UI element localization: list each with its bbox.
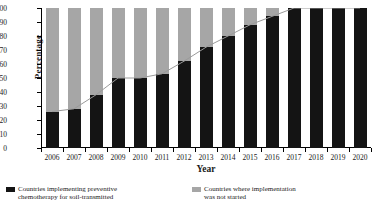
x-tick-mark <box>283 148 284 152</box>
y-tick-label: 20 <box>0 117 7 125</box>
y-tick-label: 60 <box>0 61 7 69</box>
stacked-bar[interactable] <box>178 8 191 148</box>
bar-segment-not-started <box>46 8 59 112</box>
bar-segment-implementing <box>134 78 147 148</box>
bar-segment-implementing <box>310 8 323 148</box>
x-tick-label: 2006 <box>41 153 63 162</box>
bar-segment-implementing <box>200 47 213 148</box>
x-tick-label: 2010 <box>129 153 151 162</box>
x-tick-mark <box>129 148 130 152</box>
x-tick-label: 2009 <box>107 153 129 162</box>
legend-item[interactable]: Countries where implementationwas not st… <box>192 185 368 201</box>
bar-segment-implementing <box>112 78 125 148</box>
bar-segment-implementing <box>222 36 235 148</box>
x-tick-mark <box>261 148 262 152</box>
stacked-bar[interactable] <box>46 8 59 148</box>
x-tick-label: 2020 <box>349 153 371 162</box>
legend-label: Countries implementing preventivechemoth… <box>18 185 117 201</box>
stacked-bar[interactable] <box>266 8 279 148</box>
x-tick-label: 2015 <box>239 153 261 162</box>
bar-slot <box>85 8 107 148</box>
bar-segment-not-started <box>134 8 147 78</box>
stacked-bar[interactable] <box>200 8 213 148</box>
x-tick-mark <box>107 148 108 152</box>
bar-segment-implementing <box>46 112 59 148</box>
stacked-bar[interactable] <box>332 8 345 148</box>
x-tick-label: 2016 <box>261 153 283 162</box>
legend-swatch-icon <box>6 187 15 192</box>
bar-segment-implementing <box>332 8 345 148</box>
x-tick-mark <box>239 148 240 152</box>
bar-segment-implementing <box>354 8 367 148</box>
y-tick-label: 10 <box>0 131 7 139</box>
bar-segment-implementing <box>156 74 169 148</box>
stacked-bar[interactable] <box>112 8 125 148</box>
x-tick-mark <box>195 148 196 152</box>
bar-segment-implementing <box>90 95 103 148</box>
y-tick-label: 90 <box>0 19 7 27</box>
legend-label: Countries where implementationwas not st… <box>204 185 296 201</box>
y-tick-label: 70 <box>0 47 7 55</box>
x-tick-label: 2017 <box>283 153 305 162</box>
y-tick-label: 50 <box>0 75 7 83</box>
stacked-bar[interactable] <box>244 8 257 148</box>
y-tick-label: 0 <box>0 145 7 153</box>
stacked-bar[interactable] <box>310 8 323 148</box>
x-tick-mark <box>305 148 306 152</box>
bar-slot <box>327 8 349 148</box>
x-axis-labels: 2006200720082009201020112012201320142015… <box>41 153 371 162</box>
bar-slot <box>151 8 173 148</box>
bar-segment-not-started <box>156 8 169 74</box>
x-tick-mark <box>371 148 372 152</box>
x-tick-label: 2019 <box>327 153 349 162</box>
x-tick-mark <box>349 148 350 152</box>
x-tick-label: 2012 <box>173 153 195 162</box>
x-tick-mark <box>217 148 218 152</box>
bar-segment-not-started <box>112 8 125 78</box>
bar-slot <box>283 8 305 148</box>
x-tick-mark <box>63 148 64 152</box>
bar-slot <box>217 8 239 148</box>
bar-slot <box>107 8 129 148</box>
y-tick-label: 80 <box>0 33 7 41</box>
x-tick-label: 2007 <box>63 153 85 162</box>
bar-segment-implementing <box>68 109 81 148</box>
x-tick-label: 2014 <box>217 153 239 162</box>
chart-legend: Countries implementing preventivechemoth… <box>6 185 374 201</box>
stacked-bar[interactable] <box>222 8 235 148</box>
y-tick-label: 30 <box>0 103 7 111</box>
stacked-bar[interactable] <box>134 8 147 148</box>
bar-slot <box>349 8 371 148</box>
bar-segment-implementing <box>244 25 257 148</box>
bar-segment-implementing <box>266 16 279 148</box>
stacked-bar[interactable] <box>156 8 169 148</box>
chart-figure: Percentage 0102030405060708090100 200620… <box>0 0 380 204</box>
legend-item[interactable]: Countries implementing preventivechemoth… <box>6 185 182 201</box>
bar-segment-not-started <box>200 8 213 47</box>
bar-group <box>41 8 371 148</box>
y-tick-label: 100 <box>0 5 7 13</box>
bar-segment-implementing <box>178 61 191 148</box>
stacked-bar[interactable] <box>354 8 367 148</box>
y-tick-label: 40 <box>0 89 7 97</box>
bar-slot <box>129 8 151 148</box>
bar-segment-not-started <box>244 8 257 25</box>
legend-swatch-icon <box>192 187 201 192</box>
bar-slot <box>261 8 283 148</box>
bar-slot <box>305 8 327 148</box>
stacked-bar[interactable] <box>90 8 103 148</box>
x-tick-mark <box>173 148 174 152</box>
x-tick-mark <box>327 148 328 152</box>
x-tick-label: 2013 <box>195 153 217 162</box>
bar-segment-not-started <box>266 8 279 16</box>
x-axis-title: Year <box>41 164 371 174</box>
x-tick-label: 2011 <box>151 153 173 162</box>
stacked-bar[interactable] <box>288 8 301 148</box>
bar-slot <box>63 8 85 148</box>
bar-slot <box>195 8 217 148</box>
stacked-bar[interactable] <box>68 8 81 148</box>
bar-segment-not-started <box>222 8 235 36</box>
x-tick-mark <box>151 148 152 152</box>
x-tick-label: 2018 <box>305 153 327 162</box>
x-tick-mark <box>41 148 42 152</box>
